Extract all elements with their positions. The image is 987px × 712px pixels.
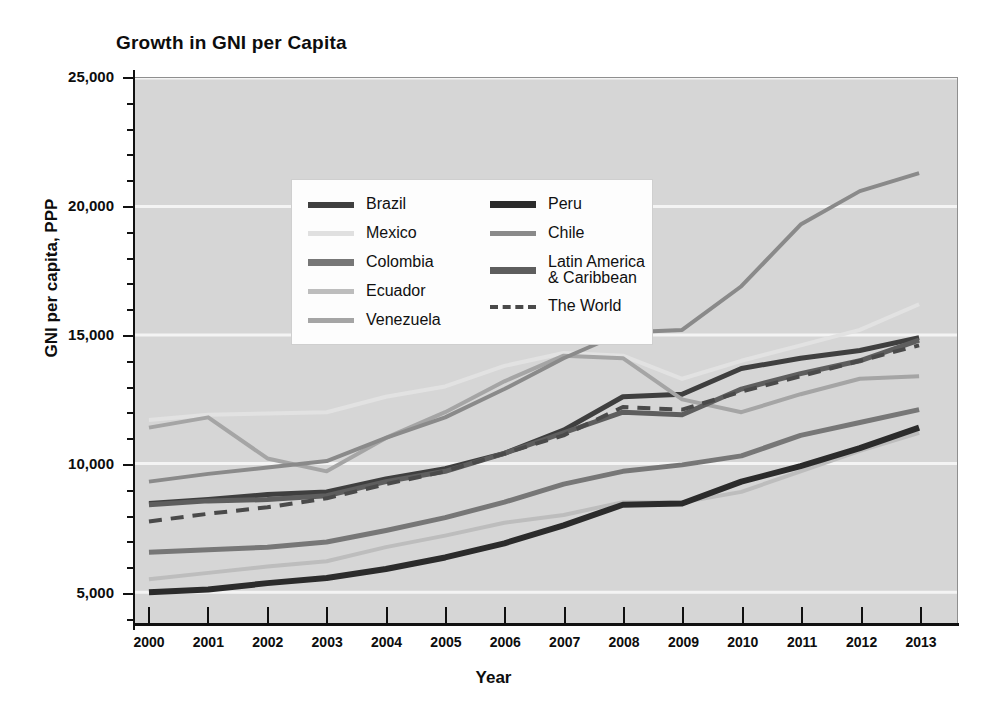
x-axis-tick (445, 607, 447, 623)
y-axis-tick-minor (127, 438, 134, 440)
legend-item[interactable]: Colombia (308, 248, 484, 277)
legend-swatch-icon (490, 201, 536, 208)
x-axis-tick (504, 607, 506, 623)
legend: BrazilMexicoColombiaEcuadorVenezuela Per… (291, 179, 653, 345)
x-axis-tick (207, 607, 209, 623)
legend-item[interactable]: Brazil (308, 190, 484, 219)
x-axis-tick (742, 607, 744, 623)
y-axis-tick-major (123, 206, 134, 208)
legend-swatch-icon (490, 267, 536, 274)
legend-item[interactable]: Latin America & Caribbean (490, 248, 654, 292)
legend-swatch-icon (490, 305, 536, 309)
legend-item-label: The World (548, 298, 622, 314)
legend-item-label: Peru (548, 196, 582, 212)
legend-item[interactable]: Chile (490, 219, 654, 248)
x-axis-tick (682, 607, 684, 623)
x-axis-tick-label: 2008 (594, 634, 654, 650)
x-axis-tick (386, 607, 388, 623)
y-axis-tick-minor (127, 309, 134, 311)
legend-item[interactable]: Ecuador (308, 277, 484, 306)
y-axis-tick-minor (127, 283, 134, 285)
y-axis-tick-label: 5,000 (34, 584, 114, 601)
x-axis-title: Year (0, 668, 987, 688)
legend-item[interactable]: Venezuela (308, 306, 484, 335)
page-title: Growth in GNI per Capita (116, 32, 347, 54)
legend-item-label: Brazil (366, 196, 406, 212)
x-axis-tick-label: 2001 (178, 634, 238, 650)
x-axis-tick-label: 2005 (416, 634, 476, 650)
plot-area: BrazilMexicoColombiaEcuadorVenezuela Per… (134, 77, 958, 624)
series-line-colombia (149, 410, 919, 553)
y-axis-title: GNI per capita, PPP (42, 168, 62, 388)
y-axis-tick-minor (127, 516, 134, 518)
legend-swatch-icon (308, 259, 354, 266)
x-axis-tick-label: 2003 (297, 634, 357, 650)
x-axis-tick-label: 2011 (772, 634, 832, 650)
y-axis-tick-minor (127, 361, 134, 363)
x-axis-tick (564, 607, 566, 623)
legend-swatch-icon (308, 202, 354, 208)
x-axis-tick-label: 2012 (832, 634, 892, 650)
legend-item[interactable]: The World (490, 292, 654, 321)
x-axis-tick (920, 607, 922, 623)
y-axis-tick-minor (127, 387, 134, 389)
legend-swatch-icon (308, 231, 354, 236)
legend-item[interactable]: Peru (490, 190, 654, 219)
legend-item-label: Colombia (366, 254, 434, 270)
y-axis-tick-major (123, 464, 134, 466)
chart-figure: Growth in GNI per Capita BrazilMexicoCol… (0, 0, 987, 712)
y-axis-tick-major (123, 335, 134, 337)
x-axis-tick-label: 2007 (535, 634, 595, 650)
y-axis-tick-minor (127, 541, 134, 543)
x-axis-tick (623, 607, 625, 623)
y-axis-tick-minor (127, 412, 134, 414)
legend-item[interactable]: Mexico (308, 219, 484, 248)
series-line-latin-america-caribbean (149, 340, 919, 505)
x-axis-tick-label: 2010 (713, 634, 773, 650)
plot-svg (135, 78, 957, 623)
legend-item-label: Chile (548, 225, 584, 241)
y-axis-tick-minor (127, 232, 134, 234)
legend-item-label: Venezuela (366, 312, 441, 328)
x-axis-tick (326, 607, 328, 623)
x-axis-tick (801, 607, 803, 623)
x-axis-tick (861, 607, 863, 623)
x-axis-tick (148, 607, 150, 623)
legend-swatch-icon (308, 318, 354, 323)
y-axis-tick-minor (127, 180, 134, 182)
y-axis-tick-minor (127, 490, 134, 492)
y-axis-tick-minor (127, 567, 134, 569)
x-axis-tick-label: 2004 (357, 634, 417, 650)
y-axis-tick-minor (127, 154, 134, 156)
legend-column-right: PeruChileLatin America & CaribbeanThe Wo… (490, 190, 654, 321)
x-axis-tick-label: 2006 (475, 634, 535, 650)
x-axis-line (133, 623, 959, 626)
x-axis-tick-label: 2013 (891, 634, 951, 650)
legend-item-label: Latin America & Caribbean (548, 254, 645, 287)
x-axis-tick (267, 607, 269, 623)
legend-column-left: BrazilMexicoColombiaEcuadorVenezuela (308, 190, 484, 335)
y-axis-tick-major (123, 77, 134, 79)
y-axis-tick-minor (127, 258, 134, 260)
y-axis-tick-minor (127, 129, 134, 131)
series-line-brazil (149, 338, 919, 504)
y-axis-tick-minor (127, 103, 134, 105)
legend-item-label: Mexico (366, 225, 417, 241)
legend-item-label: Ecuador (366, 283, 426, 299)
x-axis-tick-label: 2000 (119, 634, 179, 650)
legend-swatch-icon (308, 289, 354, 294)
y-axis-tick-label: 25,000 (34, 68, 114, 85)
y-axis-tick-minor (127, 619, 134, 621)
y-axis-tick-major (123, 593, 134, 595)
y-axis-tick-label: 10,000 (34, 455, 114, 472)
x-axis-tick-label: 2002 (238, 634, 298, 650)
x-axis-tick-label: 2009 (653, 634, 713, 650)
legend-swatch-icon (490, 231, 536, 236)
